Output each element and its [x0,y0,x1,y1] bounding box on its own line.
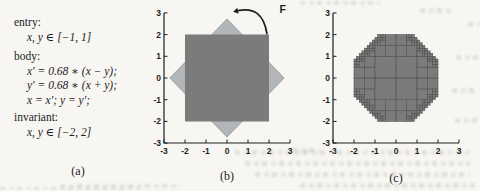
paving-cell [422,100,425,103]
paving-cell [375,43,378,46]
paving-cell [428,54,431,57]
paving-cell [375,78,396,100]
arrow-F-curve [238,10,267,34]
paving-cell [422,108,425,111]
paving-cell [420,105,423,108]
paving-cell [367,108,370,111]
paving-cell [380,116,383,119]
paving-cell [407,119,410,122]
paving-cell [412,116,415,119]
paving-cell [407,116,410,119]
paving-cell [380,35,383,38]
paving-cell [435,89,438,92]
paving-cell [412,37,415,40]
paving-cell [378,40,381,43]
x-tick-label: 2 [436,146,441,156]
paving-cell [430,94,433,97]
x-tick-label: 1 [246,146,251,156]
paving-cell [375,113,378,116]
paving-cell [430,97,433,100]
paving-cell [435,94,438,97]
paving-cell [380,40,385,45]
paving-cell [428,89,433,94]
paving-cell [378,119,381,122]
paving-cell [367,48,370,51]
paving-cell [367,54,370,57]
paving-cell [367,102,370,105]
paving-cell [357,97,360,100]
paving-cell [407,40,412,45]
paving-cell [354,89,357,92]
paving-cell [362,54,365,57]
paving-cell [428,59,431,62]
y-tick-label: -1 [153,95,161,105]
paving-cell [357,56,360,59]
caption-b: (b) [205,169,249,184]
arrow-F-label: F [280,3,287,15]
paving-cell [378,37,381,40]
paving-cell [407,111,412,116]
paving-cell [383,37,386,40]
body-statement-1: x′ = 0.68 ∗ (x − y); [27,64,117,79]
paving-cell [435,59,438,62]
plot-c: -3-2-10123-3-2-10123 [309,2,479,162]
paving-cell [367,51,370,54]
paving-cell [365,67,376,78]
paving-cell [428,100,431,103]
paving-cell [414,40,417,43]
scan-artifact [0,187,140,190]
paving-cell [417,111,420,114]
x-tick-label: 3 [288,146,293,156]
x-tick-label: -2 [350,146,358,156]
paving-cell [370,111,373,114]
paving-cell [412,35,415,38]
paving-cell [362,94,365,97]
paving-cell [396,45,407,56]
paving-cell [409,37,412,40]
paving-cell [409,119,412,122]
paving-cell [357,89,360,92]
caption-a: (a) [56,164,100,179]
program-listing: entry: x, y ∈ [−1, 1] body: x′ = 0.68 ∗ … [14,15,117,139]
paving-cell [359,100,362,103]
y-tick-label: -2 [322,116,330,126]
paving-cell [417,56,428,67]
paving-cell [420,45,423,48]
invariant-box [185,35,269,122]
entry-domain: x, y ∈ [−1, 1] [27,30,117,45]
paving-cell [375,116,378,119]
paving-cell [372,108,375,111]
paving-cell [435,64,438,67]
paving-cell [425,100,428,103]
body-statement-3: x = x′; y = y′; [27,93,117,108]
entry-label: entry: [14,15,117,30]
paving-cell [357,94,360,97]
paving-cell [354,59,357,62]
y-tick-label: 0 [156,73,161,83]
paving-cell [375,37,378,40]
paving-cell [370,105,373,108]
paving-cell [417,108,420,111]
paving-cell [354,67,365,78]
paving-cell [383,119,386,122]
paving-cell [365,48,368,51]
scanned-figure-page: entry: x, y ∈ [−1, 1] body: x′ = 0.68 ∗ … [0,0,480,191]
paving-cell [396,56,417,78]
paving-cell [433,56,436,59]
invariant-label: invariant: [14,110,117,125]
y-tick-label: 2 [325,30,330,40]
paving-cell [422,54,425,57]
paving-cell [372,48,375,51]
paving-cell [365,105,368,108]
x-tick-label: 1 [415,146,420,156]
paving-cell [433,59,436,62]
paving-cell [412,40,415,43]
paving-cell [378,35,381,38]
paving-cell [417,48,420,51]
paving-cell [365,89,376,100]
paving-cell [372,105,375,108]
paving-cell [417,100,422,105]
paving-cell [396,100,407,111]
paving-cell [430,54,433,57]
paving-cell [422,102,425,105]
